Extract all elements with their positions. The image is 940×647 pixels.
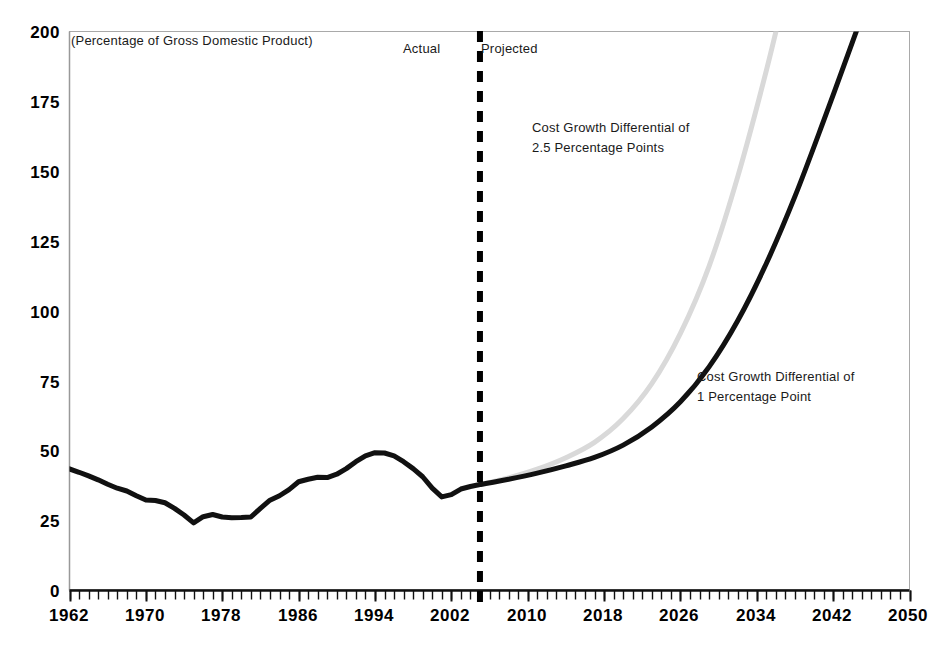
x-tick-label-2034: 2034 — [716, 607, 796, 624]
y-tick-label-25: 25 — [4, 513, 60, 530]
x-axis-ticks — [71, 591, 911, 600]
x-tick-label-1962: 1962 — [29, 607, 109, 624]
y-tick-label-100: 100 — [4, 304, 60, 321]
x-tick-label-1994: 1994 — [334, 607, 414, 624]
y-tick-label-50: 50 — [4, 443, 60, 460]
x-tick-label-2050: 2050 — [868, 607, 940, 624]
projected-region-label: Projected — [481, 39, 538, 59]
x-tick-label-2002: 2002 — [410, 607, 490, 624]
x-tick-label-2042: 2042 — [792, 607, 872, 624]
y-tick-label-125: 125 — [4, 234, 60, 251]
x-tick-label-1978: 1978 — [181, 607, 261, 624]
chart-container: 200 175 150 125 100 75 50 25 0 1962 1970… — [0, 0, 940, 647]
chart-canvas — [0, 0, 940, 647]
x-tick-label-1986: 1986 — [258, 607, 338, 624]
annotation-line-1: Cost Growth Differential of — [697, 367, 855, 387]
y-tick-label-0: 0 — [4, 583, 60, 600]
y-tick-label-200: 200 — [4, 24, 60, 41]
annotation-line-2: 2.5 Percentage Points — [532, 138, 690, 158]
y-tick-label-75: 75 — [4, 374, 60, 391]
series-annotation-1-point: Cost Growth Differential of 1 Percentage… — [697, 367, 855, 407]
y-tick-label-175: 175 — [4, 94, 60, 111]
chart-subtitle: (Percentage of Gross Domestic Product) — [71, 31, 313, 51]
y-tick-label-150: 150 — [4, 164, 60, 181]
x-tick-label-2010: 2010 — [487, 607, 567, 624]
annotation-line-1: Cost Growth Differential of — [532, 118, 690, 138]
x-tick-label-2026: 2026 — [639, 607, 719, 624]
annotation-line-2: 1 Percentage Point — [697, 387, 855, 407]
plot-frame — [70, 32, 910, 590]
x-tick-label-2018: 2018 — [563, 607, 643, 624]
series-annotation-2-5-points: Cost Growth Differential of 2.5 Percenta… — [532, 118, 690, 158]
x-tick-label-1970: 1970 — [105, 607, 185, 624]
actual-region-label: Actual — [403, 39, 440, 59]
